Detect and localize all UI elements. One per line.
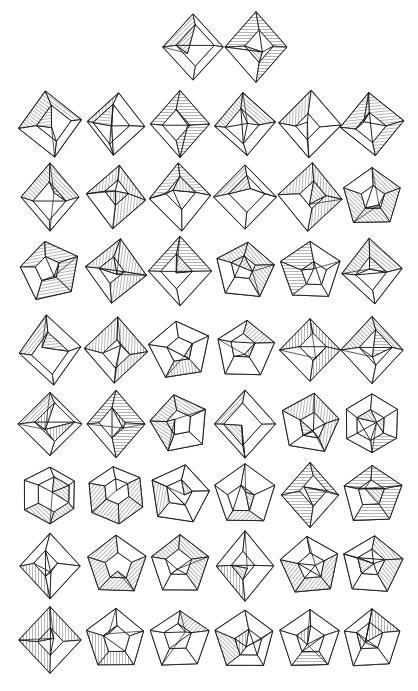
figure-plate bbox=[0, 0, 418, 691]
figure-plate-canvas bbox=[0, 0, 418, 691]
